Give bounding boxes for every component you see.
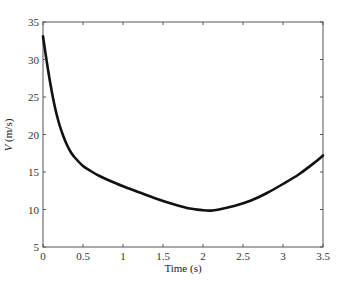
x-tick-label: 3.5 [316, 250, 330, 262]
y-tick-label: 5 [34, 241, 40, 253]
y-tick-label: 25 [28, 91, 40, 103]
x-tick-label: 1.5 [156, 250, 170, 262]
axes-frame [43, 22, 323, 247]
y-tick-label: 15 [28, 166, 40, 178]
x-axis-ticks: 00.511.522.533.5 [40, 22, 330, 262]
x-tick-label: 0.5 [76, 250, 90, 262]
y-axis-ticks: 5101520253035 [28, 16, 323, 253]
series-line-velocity [43, 36, 323, 210]
x-tick-label: 2 [200, 250, 206, 262]
y-tick-label: 10 [28, 204, 40, 216]
y-axis-label-units: (m/s) [2, 118, 15, 144]
x-axis-label: Time (s) [164, 262, 202, 275]
x-tick-label: 0 [40, 250, 46, 262]
x-tick-label: 1 [120, 250, 126, 262]
y-tick-label: 35 [28, 16, 40, 28]
y-axis-label: V (m/s) [2, 118, 15, 151]
y-tick-label: 20 [28, 129, 40, 141]
x-tick-label: 2.5 [236, 250, 250, 262]
line-chart: 00.511.522.533.5 5101520253035 Time (s) … [0, 0, 343, 291]
x-tick-label: 3 [280, 250, 286, 262]
plot-area [43, 22, 323, 247]
y-tick-label: 30 [28, 54, 40, 66]
